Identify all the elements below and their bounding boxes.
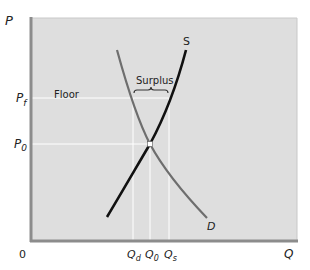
equilibrium-price-label: P0	[14, 137, 27, 153]
x-axis-label: Q	[284, 247, 293, 261]
q0-label: Q0	[145, 248, 159, 263]
qd-label: Qd	[127, 248, 142, 263]
y-axis-label: P	[5, 13, 13, 28]
floor-price-label: Pf	[16, 91, 28, 108]
floor-annotation: Floor	[54, 89, 80, 100]
qs-label: Qs	[164, 248, 177, 263]
supply-label: S	[183, 35, 190, 48]
origin-label: 0	[19, 248, 26, 261]
surplus-annotation: Surplus	[136, 75, 173, 86]
plot-area	[31, 18, 297, 241]
demand-label: D	[207, 220, 215, 233]
equilibrium-point	[148, 142, 153, 147]
price-floor-diagram: P Q 0 Pf P0 Floor Surplus S D Qd Q0 Qs	[0, 0, 310, 270]
